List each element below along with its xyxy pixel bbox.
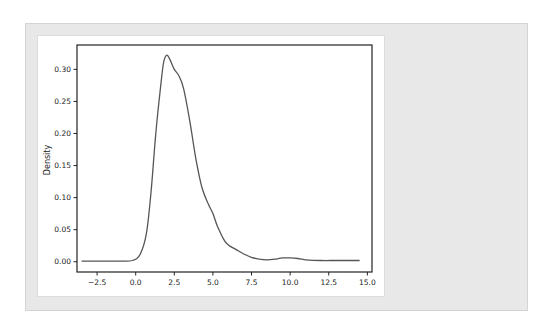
- x-tick-label: 7.5: [246, 278, 258, 287]
- x-tick-label: 0.0: [130, 278, 142, 287]
- axes-box: [77, 45, 372, 272]
- density-curve: [82, 55, 360, 261]
- density-plot: −2.50.02.55.07.510.012.515.0 0.000.050.1…: [0, 0, 554, 331]
- y-tick-label: 0.10: [54, 193, 71, 202]
- y-tick-label: 0.30: [54, 65, 71, 74]
- x-tick-label: 10.0: [282, 278, 299, 287]
- y-tick-label: 0.05: [54, 225, 71, 234]
- y-tick-label: 0.15: [54, 161, 71, 170]
- y-tick-label: 0.20: [54, 129, 71, 138]
- x-tick-label: 15.0: [359, 278, 376, 287]
- y-axis-label: Density: [43, 145, 52, 176]
- y-tick-label: 0.25: [54, 97, 71, 106]
- x-tick-label: −2.5: [88, 278, 106, 287]
- x-tick-label: 2.5: [168, 278, 180, 287]
- x-tick-label: 12.5: [320, 278, 337, 287]
- y-axis-ticks: 0.000.050.100.150.200.250.30: [54, 65, 77, 266]
- y-tick-label: 0.00: [54, 257, 71, 266]
- x-axis-ticks: −2.50.02.55.07.510.012.515.0: [88, 272, 376, 287]
- x-tick-label: 5.0: [207, 278, 219, 287]
